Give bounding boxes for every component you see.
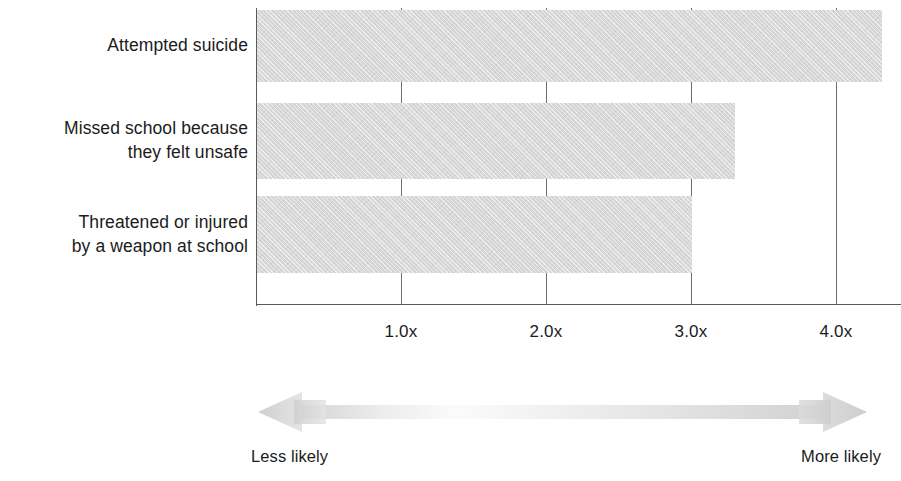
y-axis-line [256, 8, 257, 306]
x-axis-line [256, 304, 901, 305]
category-label-threatened-or-injured: Threatened or injured by a weapon at sch… [0, 210, 248, 258]
x-tick-label-1x: 1.0x [361, 322, 441, 342]
bar-threatened-or-injured [256, 196, 692, 273]
chart-container: Attempted suicide Missed school because … [0, 0, 901, 481]
x-tick-label-2x: 2.0x [506, 322, 586, 342]
direction-arrow-icon [250, 386, 875, 440]
plot-area [256, 8, 901, 305]
caption-more-likely: More likely [801, 447, 881, 466]
category-label-missed-school: Missed school because they felt unsafe [0, 116, 248, 164]
bar-missed-school [256, 103, 735, 179]
x-tick-label-4x: 4.0x [796, 322, 876, 342]
caption-less-likely: Less likely [251, 447, 328, 466]
bar-attempted-suicide [256, 10, 882, 82]
category-label-attempted-suicide: Attempted suicide [0, 33, 248, 57]
x-tick-label-3x: 3.0x [651, 322, 731, 342]
